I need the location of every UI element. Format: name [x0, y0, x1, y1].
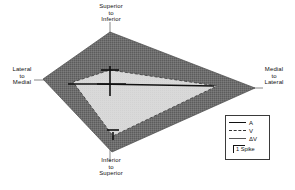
axis-label-line-1: Lateral [1, 66, 43, 73]
legend-label-v: V [246, 128, 253, 135]
axis-label-line-2: to [83, 10, 139, 17]
axis-label-line-2: to [1, 73, 43, 80]
legend-scale-bar: 1 Spike [233, 145, 261, 153]
legend-line-solid-icon [229, 120, 246, 126]
axis-label-lateral-to-medial: Lateral to Medial [1, 66, 43, 86]
axis-label-line-3: Superior [83, 170, 139, 177]
legend-line-thin-icon [229, 136, 246, 142]
axis-label-line-2: to [83, 164, 139, 171]
legend-entry-a: A [229, 119, 266, 127]
axis-label-line-1: Inferior [83, 157, 139, 164]
axis-label-line-2: to [253, 73, 295, 80]
axis-label-line-1: Superior [83, 3, 139, 10]
scale-bar-label: 1 Spike [233, 146, 261, 153]
axis-label-medial-to-lateral: Medial to Lateral [253, 66, 295, 86]
legend-line-dashed-icon [229, 128, 246, 134]
axis-label-line-3: Inferior [83, 16, 139, 23]
legend-entry-delta-v: ΔV [229, 135, 266, 143]
polar-tuning-chart [0, 0, 295, 190]
axis-label-line-3: Lateral [253, 79, 295, 86]
axis-label-inferior-to-superior: Inferior to Superior [83, 157, 139, 177]
legend-label-a: A [246, 120, 253, 127]
chart-legend: A V ΔV 1 Spike [225, 115, 270, 160]
legend-entry-v: V [229, 127, 266, 135]
legend-label-delta-v: ΔV [246, 136, 257, 143]
axis-label-line-3: Medial [1, 79, 43, 86]
axis-label-superior-to-inferior: Superior to Inferior [83, 3, 139, 23]
axis-label-line-1: Medial [253, 66, 295, 73]
